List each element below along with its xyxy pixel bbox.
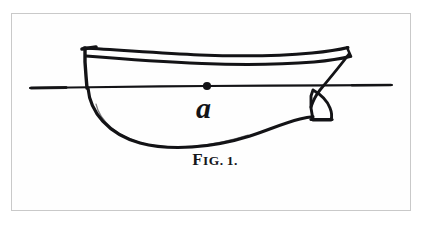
figure-plate: a FIG.1.: [0, 0, 430, 229]
rudder-outline: [311, 90, 332, 120]
point-a-marker: [203, 82, 211, 90]
figure-drawing: [0, 0, 430, 229]
point-a-label: a: [196, 93, 211, 123]
gunwale-outer-rail: [84, 48, 348, 56]
caption-number: 1.: [227, 153, 238, 168]
hull-bottom-texture: [96, 104, 248, 147]
gunwale-inner-rail: [86, 56, 350, 64]
caption-smallcaps: IG.: [203, 153, 224, 168]
figure-svg: [0, 0, 430, 229]
figure-caption: FIG.1.: [0, 150, 430, 170]
bow-post: [85, 48, 87, 88]
caption-lead: F: [192, 150, 203, 169]
